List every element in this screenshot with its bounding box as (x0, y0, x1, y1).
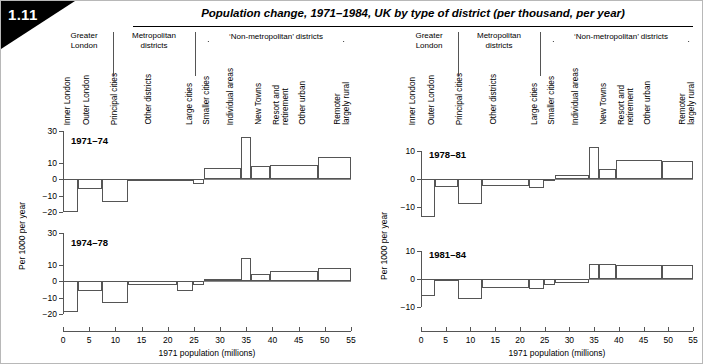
x-axis-tick-label: 20 (158, 335, 178, 345)
bar-inner-london (421, 279, 435, 296)
x-axis-tick-label: 10 (460, 335, 480, 345)
bar-smaller-cities (193, 281, 204, 284)
bar-other-urban (616, 265, 661, 279)
x-axis-tick-label: 40 (609, 335, 629, 345)
x-axis-tick-label: 0 (411, 335, 431, 345)
category-label-remoter-largely-rural: Remoterlargely rural (333, 82, 351, 125)
x-axis-tick-label: 25 (535, 335, 555, 345)
y-axis-tick (59, 265, 63, 266)
x-axis-tick (545, 327, 546, 331)
group-label-non-metropolitan: ‘Non-metropolitan’ districts (548, 32, 694, 41)
x-axis-tick-label: 45 (634, 335, 654, 345)
group-label-greater-london: GreaterLondon (58, 31, 110, 51)
bar-individual-areas (204, 279, 241, 282)
category-label-outer-london: Outer London (427, 75, 436, 125)
bar-large-cities (177, 179, 193, 181)
x-axis-tick (520, 327, 521, 331)
category-label-large-cities: Large cities (530, 83, 539, 125)
y-axis-tick (59, 212, 63, 213)
chart-panel-1971-74: 30100−10−201971–74 (15, 129, 355, 229)
group-label-non-metropolitan: ‘Non-metropolitan’ districts (203, 32, 349, 41)
x-axis-tick (421, 327, 422, 331)
x-axis-tick (351, 327, 352, 331)
x-axis-tick (594, 327, 595, 331)
bar-resort-and-retirement (599, 169, 617, 179)
x-axis-title: 1971 population (millions) (421, 348, 693, 358)
y-axis-tick (59, 314, 63, 315)
x-axis-tick (194, 327, 195, 331)
y-axis-label-right-column: Per 1000 per year (379, 171, 389, 321)
category-label-individual-areas: Individual areas (226, 68, 235, 125)
x-axis-tick-label: 20 (510, 335, 530, 345)
category-label-other-districts: Other districts (489, 74, 498, 125)
bar-other-districts (128, 179, 177, 181)
bar-resort-and-retirement (599, 264, 617, 280)
y-axis-tick-label: 10 (33, 260, 57, 270)
bar-outer-london (435, 279, 458, 281)
figure-page: 1.11 Population change, 1971–1984, UK by… (0, 0, 703, 364)
group-divider-2 (195, 32, 196, 76)
bar-inner-london (421, 179, 435, 216)
x-axis-tick-label: 30 (210, 335, 230, 345)
bar-other-districts (128, 281, 177, 285)
y-axis-tick-label: 10 (391, 246, 415, 256)
category-label-smaller-cities: Smaller cities (547, 76, 556, 125)
category-label-new-towns: New Towns (599, 83, 608, 125)
x-axis-tick (495, 327, 496, 331)
category-label-large-cities: Large cities (185, 83, 194, 125)
figure-number-text: 1.11 (8, 6, 38, 23)
chart-panel-1981-84: 100−101981–8405101520253035404550551971 … (377, 241, 702, 359)
bar-individual-areas (555, 279, 590, 283)
y-axis-tick-label: −20 (33, 207, 57, 217)
bar-outer-london (78, 281, 103, 291)
category-label-other-urban: Other urban (298, 81, 307, 125)
chart-panel-1978-81: 100−101978–81 (377, 141, 702, 231)
y-axis-tick (59, 131, 63, 132)
category-header-left: GreaterLondonMetropolitandistricts‘Non-m… (58, 31, 348, 125)
bar-remoter-largely-rural (318, 157, 351, 180)
x-axis-tick (470, 327, 471, 331)
bar-principal-cities (102, 179, 128, 202)
category-label-other-districts: Other districts (144, 74, 153, 125)
y-axis-tick (417, 307, 421, 308)
x-axis-tick (168, 327, 169, 331)
x-axis-tick (220, 327, 221, 331)
category-label-smaller-cities: Smaller cities (202, 76, 211, 125)
panel-title: 1974–78 (71, 237, 108, 248)
category-label-other-urban: Other urban (643, 81, 652, 125)
y-axis-tick-label: −10 (33, 293, 57, 303)
bar-other-urban (270, 271, 318, 282)
x-axis-tick-label: 5 (436, 335, 456, 345)
y-axis-tick (59, 163, 63, 164)
category-label-outer-london: Outer London (82, 75, 91, 125)
x-axis-tick-label: 55 (341, 335, 361, 345)
x-axis-tick-label: 15 (132, 335, 152, 345)
category-header-right: GreaterLondonMetropolitandistricts‘Non-m… (403, 31, 693, 125)
x-axis-tick-label: 35 (236, 335, 256, 345)
x-axis-tick-label: 35 (584, 335, 604, 345)
category-label-resort-and-retirement: Resort andretirement (272, 85, 290, 125)
bar-new-towns (589, 147, 598, 179)
y-axis-tick-label: 10 (33, 158, 57, 168)
bar-other-districts (482, 279, 528, 288)
y-axis-tick-label: 0 (391, 274, 415, 284)
category-label-individual-areas: Individual areas (571, 68, 580, 125)
bar-other-urban (616, 160, 661, 179)
bar-other-districts (482, 179, 528, 186)
x-axis-spine (421, 331, 693, 332)
x-axis-tick-label: 50 (315, 335, 335, 345)
group-label-metropolitan-districts: Metropolitandistricts (463, 31, 535, 51)
group-label-greater-london: GreaterLondon (403, 31, 455, 51)
category-label-resort-and-retirement: Resort andretirement (617, 85, 635, 125)
bar-smaller-cities (544, 279, 554, 285)
bar-outer-london (78, 179, 103, 188)
x-axis-tick-label: 0 (53, 335, 73, 345)
y-axis-label-left-column: Per 1000 per year (17, 161, 27, 311)
x-axis-tick (246, 327, 247, 331)
y-axis-tick-label: 30 (33, 228, 57, 238)
bar-new-towns (589, 264, 598, 280)
x-axis-spine (63, 331, 351, 332)
bar-large-cities (177, 281, 193, 291)
group-label-metropolitan-districts: Metropolitandistricts (118, 31, 190, 51)
bar-other-urban (270, 165, 318, 180)
